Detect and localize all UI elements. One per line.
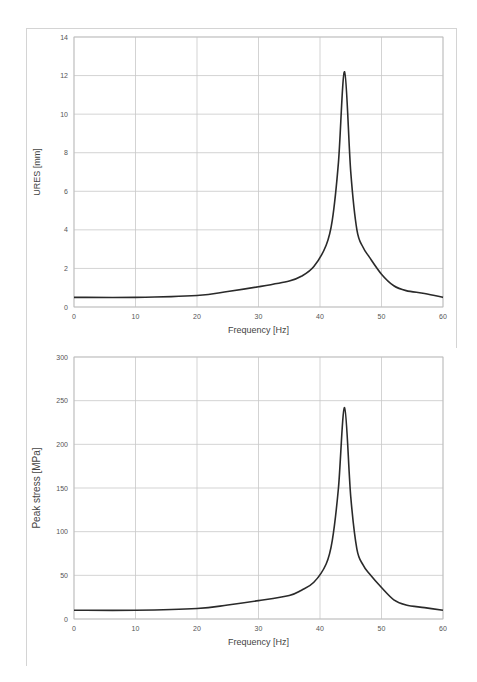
y-tick-label: 100 — [56, 528, 68, 535]
x-tick-label: 0 — [72, 313, 76, 320]
x-tick-label: 40 — [316, 625, 324, 632]
y-tick-label: 50 — [60, 572, 68, 579]
y-tick-label: 250 — [56, 397, 68, 404]
y-tick-label: 0 — [64, 616, 68, 623]
y-tick-label: 14 — [60, 34, 68, 41]
x-tick-label: 50 — [378, 625, 386, 632]
peak-stress-chart: 0501001502002503000102030405060Frequency… — [26, 346, 456, 666]
y-tick-label: 0 — [64, 304, 68, 311]
y-tick-label: 6 — [64, 188, 68, 195]
y-axis-title: Peak stress [MPa] — [31, 447, 42, 528]
x-tick-label: 10 — [132, 625, 140, 632]
x-tick-label: 30 — [255, 313, 263, 320]
y-tick-label: 8 — [64, 149, 68, 156]
x-tick-label: 10 — [132, 313, 140, 320]
ures-chart-plot: 024681012140102030405060Frequency [Hz]UR… — [27, 29, 456, 347]
y-tick-label: 150 — [56, 485, 68, 492]
y-tick-label: 2 — [64, 265, 68, 272]
x-tick-label: 0 — [72, 625, 76, 632]
peak-stress-chart-plot: 0501001502002503000102030405060Frequency… — [27, 346, 456, 666]
y-axis-title: URES [mm] — [32, 148, 42, 196]
y-tick-label: 4 — [64, 226, 68, 233]
y-tick-label: 12 — [60, 72, 68, 79]
x-tick-label: 50 — [378, 313, 386, 320]
x-axis-title: Frequency [Hz] — [228, 325, 289, 335]
x-axis-title: Frequency [Hz] — [228, 637, 289, 647]
x-tick-label: 40 — [316, 313, 324, 320]
x-tick-label: 20 — [193, 625, 201, 632]
x-tick-label: 20 — [193, 313, 201, 320]
x-tick-label: 30 — [255, 625, 263, 632]
x-tick-label: 60 — [439, 625, 447, 632]
y-tick-label: 300 — [56, 354, 68, 361]
y-tick-label: 200 — [56, 441, 68, 448]
ures-chart: 024681012140102030405060Frequency [Hz]UR… — [26, 28, 457, 348]
x-tick-label: 60 — [439, 313, 447, 320]
y-tick-label: 10 — [60, 111, 68, 118]
